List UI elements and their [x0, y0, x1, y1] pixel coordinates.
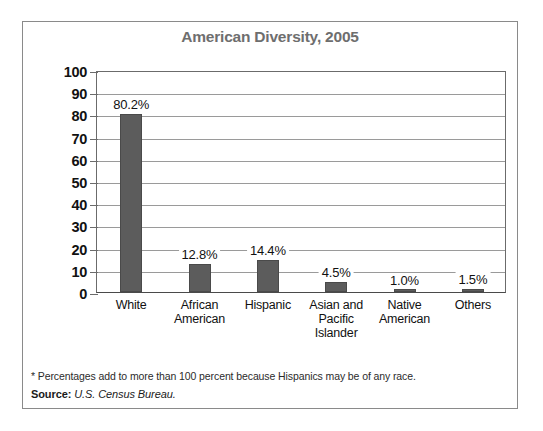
y-tick-label: 100 — [64, 64, 87, 80]
bar-value-label: 4.5% — [319, 265, 354, 280]
category-label: Asian and Pacific Islander — [299, 298, 373, 340]
y-tick-mark — [90, 183, 98, 184]
y-tick-label: 0 — [79, 286, 87, 302]
bar[interactable] — [189, 264, 211, 292]
gridline — [97, 183, 505, 184]
gridline — [97, 227, 505, 228]
category-label: Others — [436, 298, 510, 312]
y-tick-mark — [90, 116, 98, 117]
y-tick-label: 30 — [71, 219, 87, 235]
gridline — [97, 205, 505, 206]
source-line: Source: U.S. Census Bureau. — [31, 388, 509, 400]
y-tick-mark — [90, 161, 98, 162]
y-tick-mark — [90, 205, 98, 206]
bar[interactable] — [462, 289, 484, 292]
gridline — [97, 94, 505, 95]
footnote-text: * Percentages add to more than 100 perce… — [31, 370, 509, 382]
y-tick-label: 50 — [71, 175, 87, 191]
y-tick-label: 40 — [71, 197, 87, 213]
y-tick-mark — [90, 227, 98, 228]
bar-value-label: 14.4% — [247, 243, 289, 258]
y-tick-mark — [90, 250, 98, 251]
y-tick-label: 80 — [71, 108, 87, 124]
gridline — [97, 116, 505, 117]
bar-value-label: 80.2% — [110, 97, 152, 112]
source-label: Source: — [31, 388, 71, 400]
category-label: White — [94, 298, 168, 312]
category-label: Native American — [368, 298, 442, 326]
bar-value-label: 1.0% — [387, 273, 422, 288]
gridline — [97, 161, 505, 162]
source-value: U.S. Census Bureau. — [74, 388, 175, 400]
y-tick-mark — [90, 72, 98, 73]
y-tick-label: 90 — [71, 86, 87, 102]
y-tick-label: 70 — [71, 131, 87, 147]
y-tick-mark — [90, 94, 98, 95]
bar[interactable] — [257, 260, 279, 292]
y-tick-label: 10 — [71, 264, 87, 280]
bar-value-label: 1.5% — [455, 272, 490, 287]
category-label: Hispanic — [231, 298, 305, 312]
bar[interactable] — [120, 114, 142, 292]
y-tick-label: 60 — [71, 153, 87, 169]
bar-value-label: 12.8% — [179, 247, 221, 262]
bar[interactable] — [394, 289, 416, 292]
chart-figure: American Diversity, 2005 Percent of Tota… — [22, 21, 518, 409]
footnotes: * Percentages add to more than 100 perce… — [31, 370, 509, 400]
y-tick-mark — [90, 294, 98, 295]
gridline — [97, 250, 505, 251]
y-tick-mark — [90, 139, 98, 140]
y-tick-mark — [90, 272, 98, 273]
category-label: African American — [163, 298, 237, 326]
y-tick-label: 20 — [71, 242, 87, 258]
chart-title: American Diversity, 2005 — [23, 28, 517, 46]
bar[interactable] — [325, 282, 347, 292]
gridline — [97, 139, 505, 140]
plot-area: 100908070605040302010080.2%White12.8%Afr… — [96, 71, 506, 293]
gridline — [97, 272, 505, 273]
